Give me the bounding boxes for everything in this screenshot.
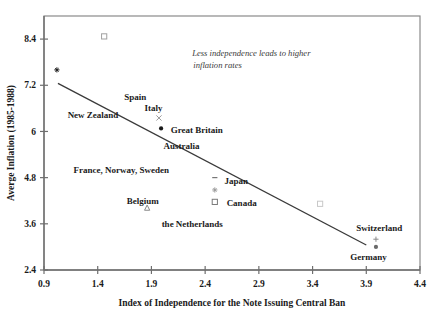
data-point-label: New Zealand xyxy=(68,110,119,120)
y-axis-title: Averge Inflation (1985-1988) xyxy=(6,85,17,201)
data-point-label: Canada xyxy=(227,198,258,208)
data-point-label: Belgium xyxy=(127,196,160,206)
data-point-marker xyxy=(374,245,378,249)
x-tick-label: 0.9 xyxy=(38,279,50,289)
x-tick-label: 2.4 xyxy=(199,279,211,289)
data-point-marker xyxy=(159,126,163,130)
chart-svg: 2.43.64.867.28.40.91.41.92.42.93.43.94.4… xyxy=(0,0,436,318)
y-tick-label: 4.8 xyxy=(24,173,36,183)
axis-titles: Index of Independence for the Note Issui… xyxy=(6,85,346,308)
data-point-marker xyxy=(212,187,217,192)
data-point-label: Australia xyxy=(164,141,201,151)
data-point-marker xyxy=(317,201,322,206)
data-point-marker xyxy=(54,67,59,72)
y-tick-label: 6 xyxy=(31,127,36,137)
y-tick-label: 7.2 xyxy=(24,80,36,90)
y-tick-label: 2.4 xyxy=(24,265,36,275)
data-point-labels: New ZealandSpainItalyGreat BritainAustra… xyxy=(68,92,403,262)
x-tick-label: 2.9 xyxy=(253,279,265,289)
data-point-marker xyxy=(373,237,378,242)
scatter-chart-container: 2.43.64.867.28.40.91.41.92.42.93.43.94.4… xyxy=(0,0,436,318)
data-point-marker xyxy=(212,199,217,204)
y-tick-label: 3.6 xyxy=(24,219,36,229)
data-point-label: Japan xyxy=(224,176,248,186)
data-point-label: Spain xyxy=(124,92,146,102)
x-tick-label: 4.4 xyxy=(414,279,426,289)
x-axis-title: Index of Independence for the Note Issui… xyxy=(119,298,347,308)
data-point-marker xyxy=(156,115,161,120)
chart-annotation: Less independence leads to higherinflati… xyxy=(191,48,311,70)
data-point-label: Great Britain xyxy=(171,125,223,135)
x-tick-label: 1.4 xyxy=(92,279,104,289)
axis-ticks: 2.43.64.867.28.40.91.41.92.42.93.43.94.4 xyxy=(24,34,426,289)
data-point-label: Italy xyxy=(145,103,164,113)
data-point-label: Germany xyxy=(350,252,387,262)
x-tick-label: 3.9 xyxy=(360,279,372,289)
data-point-label: France, Norway, Sweden xyxy=(74,165,170,175)
annotation-line-1: Less independence leads to higher xyxy=(191,48,311,58)
x-tick-label: 3.4 xyxy=(307,279,319,289)
x-tick-label: 1.9 xyxy=(145,279,157,289)
y-tick-label: 8.4 xyxy=(24,34,36,44)
data-point-label: Switzerland xyxy=(356,223,402,233)
annotation-line-2: inflation rates xyxy=(193,60,242,70)
data-point-marker xyxy=(145,205,150,210)
data-point-marker xyxy=(102,34,107,39)
data-point-label: the Netherlands xyxy=(162,219,224,229)
